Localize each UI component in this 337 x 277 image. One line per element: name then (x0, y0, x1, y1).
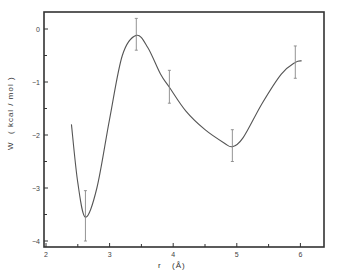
potential-of-mean-force-chart: 23456 0−1−2−3−4 r (Å) W ( kcal / mol ) (0, 0, 337, 277)
x-axis-label: r (Å) (158, 261, 186, 270)
y-tick-label: −1 (32, 79, 40, 86)
x-tick-label: 2 (44, 251, 48, 258)
y-tick-label: 0 (36, 26, 40, 33)
y-tick-label: −2 (32, 132, 40, 139)
x-axis-unit: (Å) (172, 261, 186, 270)
w-curve (71, 35, 301, 217)
x-tick-label: 3 (108, 251, 112, 258)
y-axis-symbol: W (6, 141, 15, 150)
w-curve-path (71, 35, 301, 217)
x-tick-label: 4 (171, 251, 175, 258)
y-axis-unit: ( kcal / mol ) (6, 76, 15, 134)
error-bar (135, 18, 138, 50)
y-tick-label: −3 (32, 185, 40, 192)
error-bars (84, 18, 297, 241)
error-bar (231, 130, 234, 162)
x-tick-label: 5 (235, 251, 239, 258)
x-axis-ticks: 23456 (44, 243, 302, 258)
y-axis-ticks: 0−1−2−3−4 (32, 26, 48, 245)
error-bar (168, 70, 171, 103)
x-axis-symbol: r (158, 261, 162, 270)
x-tick-label: 6 (298, 251, 302, 258)
y-axis-label: W ( kcal / mol ) (6, 76, 15, 150)
plot-frame (44, 12, 324, 247)
y-tick-label: −4 (32, 238, 40, 245)
